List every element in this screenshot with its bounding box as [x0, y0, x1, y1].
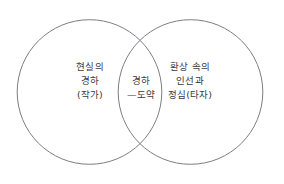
- right-set-label: 환상 속의 인선과 정심(타자): [146, 60, 234, 103]
- right-set-label-line-3: 정심(타자): [146, 88, 234, 102]
- venn-diagram: 현실의 경하 (작가) 경하 —도약 환상 속의 인선과 정심(타자): [0, 0, 284, 184]
- right-set-label-line-2: 인선과: [146, 74, 234, 88]
- left-set-label-line-1: 현실의: [50, 60, 130, 74]
- right-set-label-line-1: 환상 속의: [146, 60, 234, 74]
